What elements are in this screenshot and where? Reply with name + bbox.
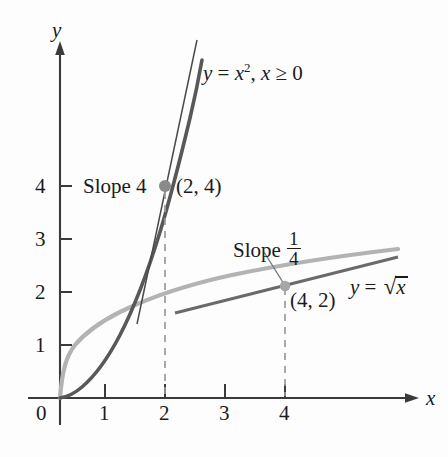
origin-tick-label: 0	[36, 401, 47, 426]
y-tick-label-1: 1	[35, 333, 46, 358]
x-axis-label: x	[426, 386, 435, 411]
sqrt-lhs: y	[350, 275, 359, 299]
y-tick-label-3: 3	[35, 227, 46, 252]
curve-sqrt-x	[60, 249, 398, 398]
xsq-domain-value: 0	[292, 61, 303, 85]
xsq-domain-relation: ≥	[276, 61, 288, 85]
x-tick-label-4: 4	[279, 401, 290, 426]
slope-quarter-fraction: 1 4	[287, 229, 301, 269]
radical-group: √x	[382, 274, 406, 300]
slope-4-annotation: Slope 4	[83, 174, 147, 199]
y-axis-label: y	[52, 18, 61, 43]
sqrt-equals: =	[365, 275, 377, 299]
slope-4-value: 4	[136, 174, 147, 198]
xsq-equals: =	[218, 61, 230, 85]
y-tick-label-4: 4	[35, 174, 46, 199]
xsq-base: x	[235, 61, 244, 85]
point-label-4-2: (4, 2)	[290, 288, 336, 313]
curve-label-sqrt-x: y = √x	[350, 274, 406, 300]
radical-sign: √	[384, 274, 397, 299]
y-tick-label-2: 2	[35, 280, 46, 305]
radicand: x	[396, 275, 405, 299]
xsq-domain-var: x	[261, 61, 270, 85]
x-tick-label-3: 3	[219, 401, 230, 426]
curve-label-x-squared: y = x2, x ≥ 0	[203, 60, 303, 86]
point-label-2-4: (2, 4)	[176, 174, 222, 199]
slope-one-quarter-annotation: Slope 1 4	[233, 229, 302, 269]
radical-overbar	[395, 276, 408, 278]
x-tick-label-2: 2	[159, 401, 170, 426]
x-tick-label-1: 1	[99, 401, 110, 426]
point-marker-4-2	[280, 281, 290, 291]
xsq-comma: ,	[251, 61, 256, 85]
slope-quarter-word: Slope	[233, 238, 281, 262]
xsq-lhs: y	[203, 61, 212, 85]
figure-canvas: y x 0 1 2 3 4 1 2 3 4 y = x2, x ≥ 0 Slop…	[0, 0, 448, 457]
fraction-numerator: 1	[287, 229, 301, 248]
x-axis-arrowhead	[405, 393, 419, 403]
curve-x-squared	[60, 60, 202, 398]
slope-4-word: Slope	[83, 174, 131, 198]
point-marker-2-4	[159, 180, 171, 192]
y-axis-arrowhead	[55, 41, 65, 55]
fraction-denominator: 4	[287, 248, 301, 268]
